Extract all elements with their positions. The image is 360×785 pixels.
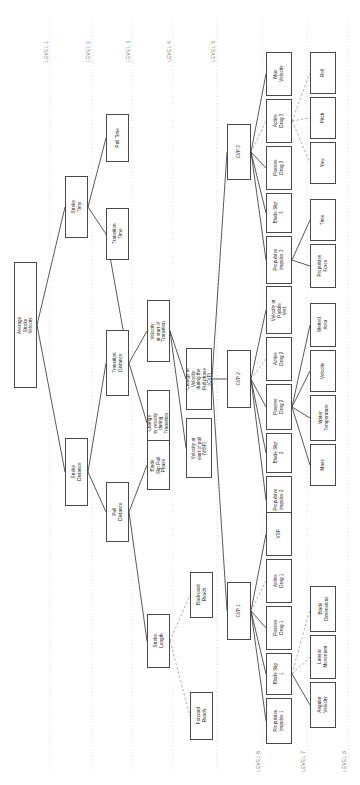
edge-pull_distance-to-stroke_length (129, 512, 147, 641)
node-velocity_start_transition[interactable]: Velocity at start of Transition (147, 300, 170, 362)
edge-passive_drag_2-to-mass (292, 407, 310, 465)
node-label-velocity: Velocity (320, 359, 326, 383)
level-label-l1: LEVEL 1 (44, 41, 49, 62)
node-blade_slip_3[interactable]: Blade Slip 3 (266, 193, 292, 233)
node-lateral_movement[interactable]: Lateral Movement (310, 635, 336, 679)
edge-stroke_length-to-backward_reach (170, 595, 190, 641)
node-label-cvp: Change in Velocity during the Pull phase… (186, 367, 212, 391)
node-propulsive_impulse_3[interactable]: Propulsive Impulse 3 (266, 236, 292, 284)
node-label-vtsp: Velocity at start of pull (VtSP) (191, 436, 208, 460)
node-velocity[interactable]: Velocity (310, 350, 336, 392)
node-yaw[interactable]: Yaw (310, 142, 336, 184)
node-max_velocity[interactable]: Max. Velocity (266, 52, 292, 96)
edge-cvp-to-cvp1 (212, 379, 227, 611)
edge-stroke_time-to-transition_time (88, 207, 106, 234)
node-propulsive_force[interactable]: Propulsive Force (310, 244, 336, 288)
node-label-change_velocity_transition: Change in velocity during Transition (147, 413, 169, 434)
node-passive_drag_2[interactable]: Passive Drag 2 (266, 384, 292, 430)
node-pull_time[interactable]: Pull Time (106, 114, 129, 162)
node-stroke_length[interactable]: Stroke Length (147, 614, 170, 668)
node-label-cvp2: CVP 2 (236, 368, 242, 390)
edge-stroke_time-to-pull_time (88, 138, 106, 207)
node-blade_slip_2[interactable]: Blade Slip 2 (266, 433, 292, 473)
node-label-cvp3: CVP 3 (236, 141, 242, 163)
node-roll[interactable]: Roll (310, 52, 336, 94)
node-label-blade_slip_1: Blade Slip 1 (273, 662, 284, 686)
edge-avg_stroke_velocity-to-stroke_time (37, 207, 65, 325)
node-label-stroke_distance: Stroke Distance (71, 462, 82, 483)
edge-pull_distance-to-blade_slip_pull_phase (129, 465, 147, 512)
node-vtsp[interactable]: Velocity at start of pull (VtSP) (186, 418, 212, 478)
node-passive_drag_1[interactable]: Passive Drag 1 (266, 606, 292, 650)
node-blade_slip_pull_phase[interactable]: Blade Slip Pull Phase (147, 440, 170, 490)
node-label-backward_reach: Backward Reach (196, 585, 207, 606)
level-label-l6: LEVEL 6 (256, 751, 261, 772)
edge-active_drag_3-to-yaw (292, 121, 310, 163)
node-forward_reach[interactable]: Forward Reach (190, 692, 213, 740)
node-label-avg_stroke_velocity: Average Stroke Velocity (17, 315, 34, 336)
node-cvp[interactable]: Change in Velocity during the Pull phase… (186, 348, 212, 410)
node-label-passive_drag_3: Passive Drag 3 (273, 156, 284, 180)
node-label-roll: Roll (320, 61, 326, 85)
node-label-pull_distance: Pull Distance (112, 502, 123, 523)
level-label-l5: LEVEL 5 (211, 41, 216, 62)
node-stroke_time[interactable]: Stroke Time (65, 176, 88, 238)
level-label-l3: LEVEL 3 (126, 41, 131, 62)
node-avg_stroke_velocity[interactable]: Average Stroke Velocity (14, 262, 37, 388)
node-active_drag_2[interactable]: Active Drag 2 (266, 337, 292, 381)
node-label-transition_distance: Transition Distance (112, 353, 123, 374)
edge-cvp1-to-vsp (251, 534, 266, 611)
node-label-pull_time: Pull Time (115, 128, 121, 149)
node-cvp2[interactable]: CVP 2 (227, 350, 251, 408)
node-label-pitch: Pitch (320, 106, 326, 130)
node-label-active_drag_2: Active Drag 2 (273, 347, 284, 371)
node-blade_slip_1[interactable]: Blade Slip 1 (266, 653, 292, 695)
node-label-angular_velocity: Angular Velocity (317, 693, 328, 717)
node-pitch[interactable]: Pitch (310, 97, 336, 139)
edge-stroke_distance-to-transition_distance (88, 363, 106, 472)
node-blade_dimensions[interactable]: Blade Dimensions (310, 586, 336, 632)
node-vsp[interactable]: VSP (266, 512, 292, 556)
node-cvp1[interactable]: CVP 1 (227, 582, 251, 640)
node-passive_drag_3[interactable]: Passive Drag 3 (266, 146, 292, 190)
node-label-mass: Mass (320, 453, 326, 477)
node-label-passive_drag_1: Passive Drag 1 (273, 616, 284, 640)
edge-cvp2-to-passive_drag_2 (251, 379, 266, 407)
node-label-blade_dimensions: Blade Dimensions (317, 597, 328, 622)
node-active_drag_3[interactable]: Active Drag 3 (266, 99, 292, 143)
node-time[interactable]: Time (310, 199, 336, 241)
node-transition_time[interactable]: Transition Time (106, 208, 129, 260)
node-label-active_drag_1: Active Drag 1 (273, 569, 284, 593)
edge-layer (0, 0, 360, 785)
node-stroke_distance[interactable]: Stroke Distance (65, 438, 88, 506)
level-label-l2: LEVEL 2 (86, 41, 91, 62)
node-cvp3[interactable]: CVP 3 (227, 124, 251, 180)
node-mass[interactable]: Mass (310, 444, 336, 486)
edge-passive_drag_2-to-wetted_area (292, 325, 310, 407)
node-pull_distance[interactable]: Pull Distance (106, 482, 129, 542)
edge-blade_slip_1-to-lateral_movement (292, 657, 310, 674)
node-angular_velocity[interactable]: Angular Velocity (310, 682, 336, 728)
node-transition_distance[interactable]: Transition Distance (106, 330, 129, 396)
edge-cvp-to-cvp3 (212, 152, 227, 379)
node-water_temperature[interactable]: Water Temperature (310, 395, 336, 441)
node-label-stroke_time: Stroke Time (71, 197, 82, 218)
node-label-stroke_length: Stroke Length (153, 631, 164, 652)
edge-active_drag_3-to-pitch (292, 118, 310, 121)
edge-passive_drag_2-to-velocity (292, 371, 310, 407)
node-label-active_drag_3: Active Drag 3 (273, 109, 284, 133)
edge-blade_slip_1-to-angular_velocity (292, 674, 310, 705)
node-backward_reach[interactable]: Backward Reach (190, 572, 213, 618)
diagram-canvas: Average Stroke VelocityStroke TimeStroke… (0, 0, 360, 785)
node-label-blade_slip_3: Blade Slip 3 (273, 201, 284, 225)
edge-transition_distance-to-velocity_start_transition (129, 331, 147, 363)
edge-cvp3-to-propulsive_impulse_3 (251, 152, 266, 260)
node-velocity_paddle_vert[interactable]: Velocity at Paddle Vert. (266, 286, 292, 334)
node-propulsive_impulse_1[interactable]: Propulsive Impulse 1 (266, 698, 292, 744)
node-active_drag_1[interactable]: Active Drag 1 (266, 559, 292, 603)
edge-cvp1-to-active_drag_1 (251, 581, 266, 611)
node-label-lateral_movement: Lateral Movement (317, 645, 328, 669)
node-label-wetted_area: Wetted Area (317, 313, 328, 337)
edge-transition_distance-to-change_velocity_transition (129, 363, 147, 423)
node-wetted_area[interactable]: Wetted Area (310, 303, 336, 347)
